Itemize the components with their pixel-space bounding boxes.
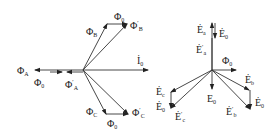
label-e-0-center: E0 xyxy=(207,94,216,105)
label-phi-b: ΦB xyxy=(86,27,97,38)
label-phi-0-top: Φ0 xyxy=(114,12,124,23)
label-phi-0-bottom: Φ0 xyxy=(107,119,117,130)
label-e-0-top: Ė0 xyxy=(219,29,228,40)
label-phi-0: Φ0 xyxy=(222,56,232,67)
label-phi-0-left: Φ0 xyxy=(34,78,44,89)
label-e-0-left: Ė0 xyxy=(156,102,165,113)
label-e-0-right: Ė0 xyxy=(255,98,264,109)
label-e-c-prime: Ė′c xyxy=(175,111,185,123)
label-phi-c-prime: Φ′C xyxy=(132,107,145,119)
label-e-c: Ėc xyxy=(156,87,165,98)
label-i-0: İ0 xyxy=(137,56,143,67)
label-e-a-prime: Ė′a xyxy=(196,44,206,56)
label-phi-a: ΦA xyxy=(17,66,29,77)
label-e-a: Ėa xyxy=(197,25,206,36)
label-phi-b-prime: Φ′B xyxy=(130,20,143,32)
label-e-b-prime: Ė′b xyxy=(226,106,236,118)
label-phi-c: ΦC xyxy=(86,107,97,118)
e-b-vector xyxy=(212,70,249,90)
label-e-b: Ėb xyxy=(245,75,254,86)
label-phi-a-prime: Φ′A xyxy=(65,79,78,91)
